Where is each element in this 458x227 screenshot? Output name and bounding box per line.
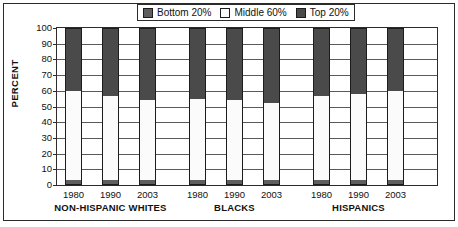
- bar-segment-bottom-20: [102, 180, 119, 185]
- x-tick-label: 2003: [255, 189, 289, 200]
- x-tick-label: 1990: [218, 189, 252, 200]
- bar-segment-bottom-20: [350, 180, 367, 185]
- y-tick-mark: [53, 154, 56, 155]
- bar-stack[interactable]: [263, 28, 280, 185]
- y-tick-mark: [53, 75, 56, 76]
- bar-segment-middle-60: [226, 100, 243, 179]
- chart-legend: Bottom 20%Middle 60%Top 20%: [137, 4, 355, 21]
- bar-segment-top-20: [313, 28, 330, 96]
- y-tick-mark: [53, 169, 56, 170]
- bar-stack[interactable]: [102, 28, 119, 185]
- bar-segment-bottom-20: [263, 180, 280, 185]
- y-tick-label: 50: [28, 102, 52, 111]
- legend-label: Middle 60%: [234, 8, 286, 18]
- x-tick-label: 1980: [57, 189, 91, 200]
- bar-segment-bottom-20: [189, 180, 206, 185]
- y-tick-mark: [53, 138, 56, 139]
- bar-stack[interactable]: [139, 28, 156, 185]
- bar-segment-bottom-20: [226, 180, 243, 185]
- bar-segment-top-20: [139, 28, 156, 100]
- y-tick-label: 60: [28, 86, 52, 95]
- bar-segment-middle-60: [189, 99, 206, 180]
- y-tick-label: 20: [28, 149, 52, 158]
- bar-segment-middle-60: [139, 100, 156, 179]
- x-tick-label: 2003: [131, 189, 165, 200]
- bar-segment-middle-60: [65, 91, 82, 180]
- legend-swatch-bottom-20: [143, 8, 153, 18]
- bar-segment-middle-60: [350, 94, 367, 180]
- legend-entry[interactable]: Top 20%: [296, 8, 349, 18]
- x-tick-label: 1980: [305, 189, 339, 200]
- bar-segment-bottom-20: [65, 180, 82, 185]
- bar-segment-middle-60: [102, 96, 119, 180]
- x-tick-label: 1990: [342, 189, 376, 200]
- bar-segment-middle-60: [313, 96, 330, 180]
- bar-segment-top-20: [65, 28, 82, 91]
- x-tick-label: 2003: [379, 189, 413, 200]
- bar-stack[interactable]: [189, 28, 206, 185]
- y-tick-mark: [53, 185, 56, 186]
- y-axis-tick-labels: 1009080706050403020100: [24, 0, 52, 227]
- y-tick-label: 90: [28, 39, 52, 48]
- legend-entry[interactable]: Middle 60%: [220, 8, 286, 18]
- bar-stack[interactable]: [313, 28, 330, 185]
- y-tick-label: 80: [28, 54, 52, 63]
- y-tick-label: 10: [28, 164, 52, 173]
- bar-segment-top-20: [102, 28, 119, 96]
- bar-segment-top-20: [387, 28, 404, 91]
- plot-area: [56, 27, 438, 186]
- bar-segment-top-20: [189, 28, 206, 99]
- y-tick-mark: [53, 91, 56, 92]
- legend-swatch-top-20: [296, 8, 306, 18]
- y-tick-mark: [53, 28, 56, 29]
- legend-label: Bottom 20%: [157, 8, 211, 18]
- group-label: HISPANICS: [269, 202, 449, 213]
- legend-entry[interactable]: Bottom 20%: [143, 8, 211, 18]
- y-axis-title: PERCENT: [9, 49, 20, 119]
- bar-segment-bottom-20: [313, 180, 330, 185]
- bar-stack[interactable]: [387, 28, 404, 185]
- y-tick-mark: [53, 122, 56, 123]
- legend-swatch-middle-60: [220, 8, 230, 18]
- bar-segment-top-20: [226, 28, 243, 100]
- bar-stack[interactable]: [350, 28, 367, 185]
- x-tick-label: 1980: [181, 189, 215, 200]
- bar-segment-middle-60: [387, 91, 404, 180]
- y-tick-label: 0: [28, 180, 52, 189]
- bar-segment-top-20: [350, 28, 367, 94]
- y-tick-mark: [53, 107, 56, 108]
- y-tick-mark: [53, 59, 56, 60]
- y-tick-label: 70: [28, 70, 52, 79]
- y-tick-label: 30: [28, 133, 52, 142]
- bar-stack[interactable]: [65, 28, 82, 185]
- legend-label: Top 20%: [310, 8, 349, 18]
- x-tick-label: 1990: [94, 189, 128, 200]
- y-tick-mark: [53, 44, 56, 45]
- bar-segment-middle-60: [263, 103, 280, 179]
- bar-segment-bottom-20: [139, 180, 156, 185]
- bar-segment-top-20: [263, 28, 280, 103]
- bar-segment-bottom-20: [387, 180, 404, 185]
- y-tick-label: 100: [28, 23, 52, 32]
- chart-figure: Bottom 20%Middle 60%Top 20% PERCENT 1009…: [0, 0, 458, 227]
- bar-stack[interactable]: [226, 28, 243, 185]
- y-tick-label: 40: [28, 117, 52, 126]
